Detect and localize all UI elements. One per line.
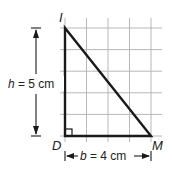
vertex-label-i: I: [59, 10, 63, 25]
vertex-label-d: D: [52, 138, 61, 153]
vertex-label-m: M: [152, 138, 163, 153]
arrow-down-icon: [33, 126, 39, 135]
grid: [60, 18, 162, 142]
height-label: h = 5 cm: [8, 77, 54, 91]
triangle-diagram: h = 5 cm b = 4 cm I D M: [0, 0, 172, 172]
base-label: b = 4 cm: [80, 149, 126, 163]
arrow-up-icon: [33, 29, 39, 38]
arrow-left-icon: [66, 153, 74, 159]
arrow-right-icon: [142, 153, 150, 159]
